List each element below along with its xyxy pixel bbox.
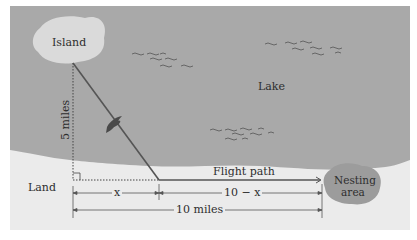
land-label: Land [28, 182, 56, 193]
right-angle-marker [73, 173, 80, 180]
island-label: Island [52, 37, 86, 48]
segment-remainder-label: 10 − x [222, 187, 262, 198]
nesting-area-label: Nesting area [334, 174, 372, 198]
total-distance-label: 10 miles [174, 204, 225, 215]
nesting-area-label-line2: area [341, 186, 365, 198]
nesting-area-label-line1: Nesting [334, 174, 376, 186]
flight-path-label: Flight path [213, 166, 275, 177]
segment-x-label: x [112, 187, 122, 198]
lake-label: Lake [258, 81, 285, 92]
vertical-distance-label: 5 miles [60, 100, 71, 140]
